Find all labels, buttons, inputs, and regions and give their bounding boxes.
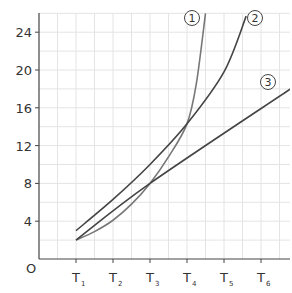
line-chart: 4812162024 T1T2T3T4T5T6 123 O	[0, 0, 292, 293]
axes	[39, 13, 290, 259]
series-2-label: 2	[252, 12, 259, 25]
origin-label: O	[26, 261, 36, 276]
series-2-curve	[76, 16, 246, 231]
y-tick-label: 4	[24, 214, 32, 229]
y-tick-label: 20	[15, 63, 32, 78]
x-tick-label: T5	[219, 270, 233, 288]
grid	[39, 13, 290, 259]
x-tick-label: T3	[145, 270, 159, 288]
y-tick-label: 8	[24, 176, 32, 191]
y-tick-label: 24	[15, 25, 32, 40]
x-tick-label: T2	[108, 270, 122, 288]
series-1-label: 1	[189, 12, 196, 25]
x-axis-ticks: T1T2T3T4T5T6	[71, 259, 271, 288]
y-tick-label: 12	[15, 139, 32, 154]
y-axis-ticks: 4812162024	[15, 25, 39, 229]
x-tick-label: T1	[71, 270, 85, 288]
series-3-label: 3	[265, 76, 272, 89]
series-labels: 123	[185, 11, 276, 90]
x-tick-label: T6	[256, 270, 271, 288]
x-tick-label: T4	[182, 270, 197, 288]
y-tick-label: 16	[15, 101, 32, 116]
